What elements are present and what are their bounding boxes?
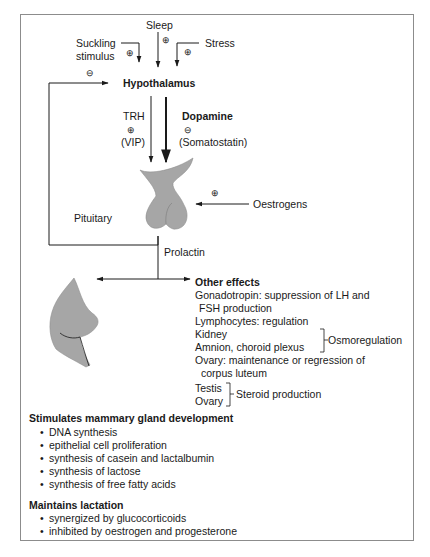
other-effect-line: Amnion, choroid plexus [195, 341, 304, 353]
bullet-icon: • [40, 426, 44, 438]
other-effect-line: Ovary [195, 395, 224, 407]
sleep-plus-sign: ⊕ [162, 35, 170, 45]
lactation-item: synergized by glucocorticoids [49, 512, 186, 524]
bullet-icon: • [40, 525, 44, 537]
bullet-icon: • [40, 465, 44, 477]
osmoregulation-label: Osmoregulation [328, 334, 402, 346]
lactation-list: • synergized by glucocorticoids • inhibi… [40, 512, 237, 537]
other-effect-line: FSH production [199, 302, 272, 314]
oestrogens-label: Oestrogens [253, 198, 307, 210]
prolactin-label: Prolactin [164, 246, 205, 258]
prolactin-regulation-diagram: Sleep ⊕ Suckling stimulus ⊕ Stress ⊕ Hyp… [0, 0, 430, 557]
hypothalamus-label: Hypothalamus [123, 77, 196, 89]
stress-plus-sign: ⊕ [184, 47, 192, 57]
osmoregulation-bracket [320, 329, 328, 352]
sleep-label: Sleep [146, 19, 173, 31]
suckling-plus-sign: ⊕ [126, 48, 134, 58]
mammary-item: epithelial cell proliferation [49, 439, 167, 451]
oestrogens-plus-sign: ⊕ [211, 188, 219, 198]
bullet-icon: • [40, 439, 44, 451]
mammary-item: synthesis of lactose [49, 465, 141, 477]
dopamine-minus-sign: ⊖ [184, 125, 192, 135]
steroid-production-label: Steroid production [236, 388, 321, 400]
mammary-item: synthesis of free fatty acids [49, 478, 176, 490]
feedback-minus-sign: ⊖ [86, 68, 94, 78]
other-effect-line: corpus luteum [201, 367, 267, 379]
suckling-label-line2: stimulus [76, 50, 115, 62]
suckling-label-line1: Suckling [76, 37, 116, 49]
mammary-item: DNA synthesis [49, 426, 117, 438]
mammary-item: synthesis of casein and lactalbumin [49, 452, 214, 464]
somatostatin-label: (Somatostatin) [179, 136, 247, 148]
other-effects-title: Other effects [195, 276, 260, 288]
other-effect-line: Testis [195, 382, 222, 394]
breast-illustration [50, 278, 98, 367]
bullet-icon: • [40, 478, 44, 490]
trh-plus-sign: ⊕ [127, 125, 135, 135]
trh-label: TRH [123, 110, 145, 122]
other-effect-line: Ovary: maintenance or regression of [195, 354, 365, 366]
other-effect-line: Lymphocytes: regulation [195, 315, 309, 327]
lactation-item: inhibited by oestrogen and progesterone [49, 525, 237, 537]
steroid-bracket [226, 383, 234, 406]
bullet-icon: • [40, 452, 44, 464]
other-effect-line: Gonadotropin: suppression of LH and [195, 289, 370, 301]
dopamine-label: Dopamine [182, 110, 233, 122]
mammary-development-title: Stimulates mammary gland development [29, 412, 234, 424]
pituitary-gland-illustration [140, 158, 193, 229]
bullet-icon: • [40, 512, 44, 524]
mammary-development-list: • DNA synthesis • epithelial cell prolif… [40, 426, 214, 490]
other-effect-line: Kidney [195, 328, 228, 340]
stress-label: Stress [205, 37, 235, 49]
vip-label: (VIP) [121, 136, 145, 148]
lactation-title: Maintains lactation [29, 499, 124, 511]
pituitary-label: Pituitary [74, 212, 113, 224]
